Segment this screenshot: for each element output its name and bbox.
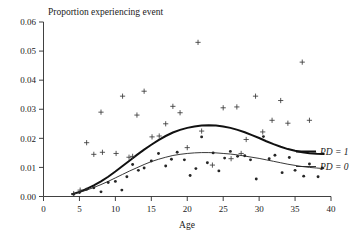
marker-plus xyxy=(98,110,103,115)
x-tick-label: 25 xyxy=(219,204,229,214)
y-tick-label: 0.00 xyxy=(20,192,36,202)
marker-dot xyxy=(200,135,203,138)
marker-dot xyxy=(273,154,276,157)
x-tick-label: 10 xyxy=(111,204,121,214)
marker-plus xyxy=(163,121,168,126)
marker-dot xyxy=(143,167,146,170)
marker-plus xyxy=(269,118,274,123)
x-tick-label: 0 xyxy=(41,204,46,214)
marker-plus xyxy=(244,137,249,142)
marker-plus xyxy=(113,151,118,156)
marker-plus xyxy=(177,110,182,115)
marker-dot xyxy=(78,191,81,194)
marker-dot xyxy=(302,175,305,178)
y-tick-label: 0.03 xyxy=(20,104,36,114)
x-tick-label: 35 xyxy=(291,204,301,214)
marker-plus xyxy=(285,121,290,126)
marker-dot xyxy=(194,167,197,170)
y-tick-label: 0.04 xyxy=(20,75,36,85)
marker-plus xyxy=(185,145,190,150)
marker-plus xyxy=(253,94,258,99)
marker-dot xyxy=(223,157,226,160)
y-axis: 0.000.010.020.030.040.050.06 xyxy=(20,17,43,202)
marker-plus xyxy=(307,118,312,123)
data-markers xyxy=(71,40,324,196)
marker-dot xyxy=(176,151,179,154)
marker-dot xyxy=(281,171,284,174)
marker-dot xyxy=(255,178,258,181)
legend-label-pd0: PD = 0 xyxy=(319,162,349,172)
marker-dot xyxy=(150,160,153,163)
legend: PD = 1 PD = 0 xyxy=(296,147,349,172)
marker-plus xyxy=(195,40,200,45)
scatter-plot: Proportion experiencing event 0.000.010.… xyxy=(0,0,360,245)
marker-plus xyxy=(278,98,283,103)
marker-dot xyxy=(206,161,209,164)
marker-dot xyxy=(125,175,128,178)
marker-dot xyxy=(249,158,252,161)
marker-plus xyxy=(142,89,147,94)
marker-dot xyxy=(72,193,75,196)
y-tick-label: 0.01 xyxy=(20,163,36,173)
x-tick-label: 5 xyxy=(77,204,82,214)
y-tick-label: 0.06 xyxy=(20,17,36,27)
marker-dot xyxy=(157,152,160,155)
x-tick-label: 15 xyxy=(147,204,157,214)
marker-dot xyxy=(107,181,110,184)
marker-plus xyxy=(84,140,89,145)
marker-plus xyxy=(120,94,125,99)
marker-dot xyxy=(308,162,311,165)
y-tick-group: 0.000.010.020.030.040.050.06 xyxy=(20,17,43,202)
marker-plus xyxy=(91,152,96,157)
x-tick-group: 0510152025303540 xyxy=(41,197,336,215)
marker-dot xyxy=(288,156,291,159)
marker-dot xyxy=(229,150,232,153)
legend-label-pd1: PD = 1 xyxy=(319,147,349,157)
marker-plus xyxy=(210,162,215,167)
curve-pd-1 xyxy=(72,125,324,194)
marker-dot xyxy=(262,135,265,138)
marker-dot xyxy=(217,169,220,172)
marker-dot xyxy=(85,188,88,191)
marker-plus xyxy=(130,154,135,159)
marker-dot xyxy=(137,169,140,172)
curve-pd-0 xyxy=(72,153,324,195)
marker-dot xyxy=(317,175,320,178)
marker-plus xyxy=(149,134,154,139)
marker-dot xyxy=(212,151,215,154)
marker-plus xyxy=(170,104,175,109)
marker-dot xyxy=(164,165,167,168)
marker-plus xyxy=(228,156,233,161)
marker-plus xyxy=(300,60,305,65)
marker-dot xyxy=(183,158,186,161)
marker-dot xyxy=(114,180,117,183)
marker-plus xyxy=(199,128,204,133)
marker-plus xyxy=(221,105,226,110)
x-axis: 0510152025303540 xyxy=(41,197,336,215)
y-tick-label: 0.05 xyxy=(20,46,36,56)
chart-container: Proportion experiencing event 0.000.010.… xyxy=(0,0,360,245)
marker-plus xyxy=(134,112,139,117)
marker-dot xyxy=(294,169,297,172)
chart-title: Proportion experiencing event xyxy=(48,7,163,17)
marker-dot xyxy=(92,186,95,189)
marker-plus xyxy=(100,150,105,155)
x-tick-label: 30 xyxy=(255,204,265,214)
y-tick-label: 0.02 xyxy=(20,134,36,144)
marker-dot xyxy=(236,155,239,158)
marker-dot xyxy=(120,189,123,192)
x-axis-label: Age xyxy=(179,220,195,230)
marker-dot xyxy=(243,154,246,157)
x-tick-label: 40 xyxy=(327,204,337,214)
marker-plus xyxy=(260,129,265,134)
marker-dot xyxy=(170,158,173,161)
marker-plus xyxy=(234,104,239,109)
marker-dot xyxy=(131,163,134,166)
marker-dot xyxy=(189,174,192,177)
marker-dot xyxy=(268,157,271,160)
fitted-curves xyxy=(72,125,324,194)
x-tick-label: 20 xyxy=(183,204,193,214)
marker-dot xyxy=(100,190,103,193)
